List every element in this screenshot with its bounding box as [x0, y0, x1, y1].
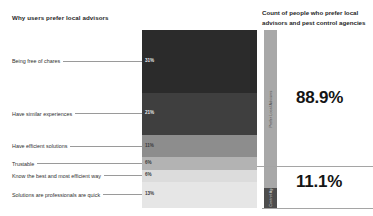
leader-line — [104, 175, 144, 176]
category-label-row: Know the best and most efficient way — [12, 172, 144, 180]
bar-segment-value: 21% — [145, 111, 154, 116]
leader-line — [63, 61, 144, 62]
page-title: Why users prefer local advisors — [12, 14, 109, 21]
leader-line — [70, 146, 144, 147]
category-label-row: Trustable — [12, 160, 144, 168]
category-label-row: Being free of chares — [12, 57, 144, 65]
primary-percentage-value: 88.9% — [296, 88, 343, 108]
ratio-divider — [257, 166, 373, 167]
bar-segment[interactable]: 31% — [142, 30, 257, 93]
category-label-row: Have similar experiences — [12, 110, 144, 118]
bar-segment-value: 6% — [145, 161, 152, 166]
bar-segment[interactable]: 13% — [142, 182, 257, 208]
leader-line — [75, 113, 144, 114]
bar-segment[interactable]: 21% — [142, 93, 257, 135]
category-label: Know the best and most efficient way — [12, 173, 101, 179]
category-label-row: Solutions are professionals are quick — [12, 191, 144, 199]
bar-segment-value: 6% — [145, 173, 152, 178]
leader-line — [37, 163, 144, 164]
ratio-bar-chart: Prefer Local Advisors Pest Control Agenc… — [264, 30, 277, 208]
bar-segment[interactable]: 6% — [142, 170, 257, 182]
ratio-baseline — [262, 208, 373, 209]
category-label: Being free of chares — [12, 58, 60, 64]
bar-segment-value: 13% — [145, 192, 154, 197]
category-label: Have efficient solutions — [12, 143, 67, 149]
category-label: Have similar experiences — [12, 111, 72, 117]
ratio-segment-label: Pest Control Agency — [269, 188, 273, 208]
leader-line — [103, 194, 144, 195]
secondary-percentage-value: 11.1% — [296, 172, 342, 192]
category-label: Trustable — [12, 161, 34, 167]
category-label: Solutions are professionals are quick — [12, 192, 100, 198]
bar-segment-value: 11% — [145, 144, 154, 149]
bar-segment[interactable]: 11% — [142, 135, 257, 157]
ratio-segment-label: Prefer Local Advisors — [269, 91, 273, 128]
right-panel-title: Count of people who prefer local advisor… — [262, 8, 372, 27]
category-label-row: Have efficient solutions — [12, 142, 144, 150]
ratio-bar-segment[interactable]: Prefer Local Advisors — [264, 30, 277, 188]
stacked-bar-chart: 31% 21% 11% 6% 6% 13% — [142, 30, 257, 208]
bar-segment-value: 31% — [145, 59, 154, 64]
ratio-bar-segment[interactable]: Pest Control Agency — [264, 188, 277, 208]
bar-segment[interactable]: 6% — [142, 157, 257, 169]
